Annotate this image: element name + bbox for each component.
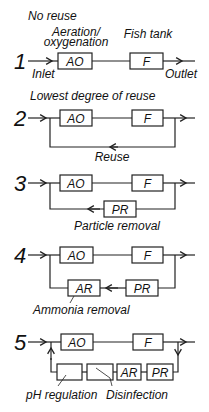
annotation-oxygenation: oxygenation <box>44 35 109 49</box>
scheme-number: 1 <box>14 49 26 74</box>
f-label: F <box>144 336 152 350</box>
ao-label: AO <box>67 336 85 350</box>
annotation-outlet: Outlet <box>165 67 198 81</box>
ao-label: AO <box>65 55 83 69</box>
ao-label: AO <box>67 249 85 263</box>
scheme-4: 4 AO F PR AR Ammonia removal <box>14 243 195 317</box>
annotation-ph-regulation: pH regulation <box>25 388 98 402</box>
scheme-1: No reuse Aeration/ oxygenation Fish tank… <box>14 9 198 81</box>
pr-label: PR <box>112 203 129 217</box>
scheme-3: 3 AO F PR Particle removal <box>14 171 195 233</box>
f-label: F <box>143 55 151 69</box>
loop-label: Reuse <box>95 150 130 164</box>
ao-label: AO <box>66 112 84 126</box>
loop-label: Ammonia removal <box>32 303 130 317</box>
ao-label: AO <box>66 177 84 191</box>
scheme-number: 3 <box>14 171 27 196</box>
loop-label: Particle removal <box>74 219 160 233</box>
f-label: F <box>144 249 152 263</box>
scheme-number: 2 <box>13 106 26 131</box>
ar-label: AR <box>120 366 138 380</box>
ar-label: AR <box>75 282 93 296</box>
annotation-inlet: Inlet <box>32 67 55 81</box>
scheme-number: 5 <box>14 330 27 355</box>
annotation-disinfection: Disinfection <box>106 388 168 402</box>
scheme-5: 5 AO F PR AR pH regulation Disinfection <box>14 330 195 402</box>
annotation-fish-tank: Fish tank <box>124 27 174 41</box>
ph-regulation-box <box>57 364 82 380</box>
f-label: F <box>144 177 152 191</box>
f-label: F <box>144 112 152 126</box>
caption-lowest-reuse: Lowest degree of reuse <box>30 89 156 103</box>
pr-label: PR <box>152 366 169 380</box>
scheme-2: Lowest degree of reuse 2 AO F Reuse <box>13 89 195 164</box>
scheme-number: 4 <box>14 243 26 268</box>
reuse-diagram: No reuse Aeration/ oxygenation Fish tank… <box>0 0 209 412</box>
pr-label: PR <box>134 282 151 296</box>
caption-no-reuse: No reuse <box>28 9 77 23</box>
